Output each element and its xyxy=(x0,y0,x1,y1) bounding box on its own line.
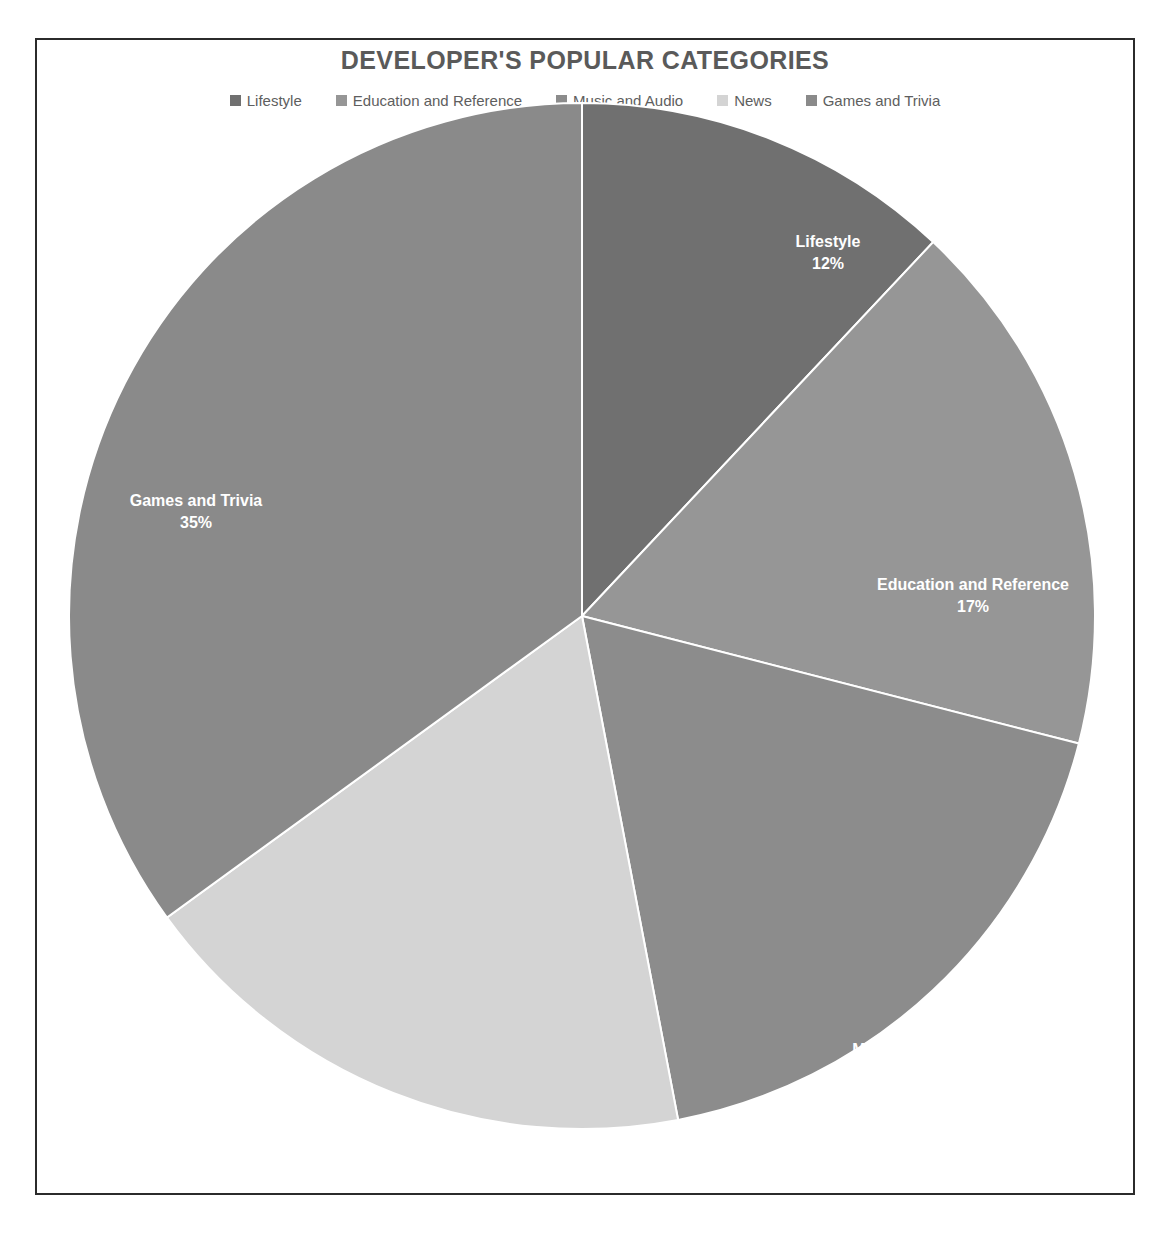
pie-slice-label: Lifestyle xyxy=(796,233,861,250)
pie-slices-group xyxy=(69,103,1095,1129)
pie-slice-value: 12% xyxy=(812,255,844,272)
pie-slice-value: 35% xyxy=(180,514,212,531)
pie-slice-label: News xyxy=(434,1123,476,1140)
pie-slice-value: 18% xyxy=(900,1063,932,1080)
pie-slice-label: Education and Reference xyxy=(877,576,1069,593)
chart-frame: DEVELOPER'S POPULAR CATEGORIES Lifestyle… xyxy=(35,38,1135,1195)
pie-slice-label: Games and Trivia xyxy=(130,492,263,509)
pie-slice-value: 17% xyxy=(957,598,989,615)
pie-slice-label: Music and Audio xyxy=(852,1041,980,1058)
pie-chart-svg: Lifestyle12%Education and Reference17%Mu… xyxy=(68,102,1108,1142)
pie-chart-area: Lifestyle12%Education and Reference17%Mu… xyxy=(37,40,1133,1193)
